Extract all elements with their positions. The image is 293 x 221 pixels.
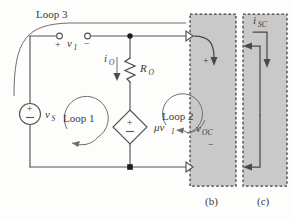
voc-polarity-minus: − (208, 139, 214, 150)
panel-c-region (243, 14, 287, 186)
loop-3-path (14, 23, 186, 96)
io-label-group: i O (104, 52, 115, 67)
circuit-diagram: + v 1 − Loop 3 + v S Loop 1 R O i O (0, 0, 293, 221)
resistor-subscript: O (149, 68, 155, 77)
node-top-junction (127, 33, 132, 38)
vs-subscript: S (52, 114, 56, 123)
loop-3-label: Loop 3 (36, 8, 68, 20)
isc-label: i (253, 14, 256, 26)
dep-src-label-group: μv 1 (153, 121, 175, 136)
v1-label-group: + v 1 − (55, 37, 90, 52)
voc-plus-sign: + (203, 55, 209, 66)
loop-1-label: Loop 1 (63, 112, 94, 124)
dependent-voltage-source[interactable]: + (113, 110, 147, 144)
voc-minus-sign: − (208, 139, 214, 150)
independent-voltage-source[interactable]: + (20, 103, 41, 125)
isc-subscript: SC (258, 20, 268, 29)
io-subscript: O (109, 58, 115, 67)
v1-minus-sign: − (84, 38, 90, 49)
voc-subscript: OC (202, 128, 213, 137)
resistor-label: R (139, 62, 147, 74)
v1-label: v (67, 37, 72, 49)
node-bottom-junction (127, 164, 133, 170)
v1-subscript: 1 (74, 43, 78, 52)
loop-2-label: Loop 2 (162, 110, 193, 122)
panel-c-caption: (c) (257, 195, 270, 208)
voc-label: v (196, 122, 201, 134)
dep-src-subscript: 1 (171, 127, 175, 136)
dep-src-label: μv (153, 121, 165, 133)
v1-plus-sign: + (55, 39, 61, 50)
io-label: i (104, 52, 107, 64)
voc-polarity-plus: + (203, 55, 209, 66)
vs-plus-sign: + (27, 103, 33, 114)
circuit-wires (30, 36, 186, 167)
panel-b-caption: (b) (205, 195, 218, 208)
resistor[interactable] (125, 58, 135, 82)
resistor-label-group: R O (139, 62, 155, 77)
vs-label: v (45, 108, 50, 120)
io-current-arrow (114, 57, 121, 81)
dep-src-plus-sign: + (127, 117, 133, 128)
vs-label-group: v S (45, 108, 56, 123)
figure-canvas: + v 1 − Loop 3 + v S Loop 1 R O i O (0, 0, 293, 221)
